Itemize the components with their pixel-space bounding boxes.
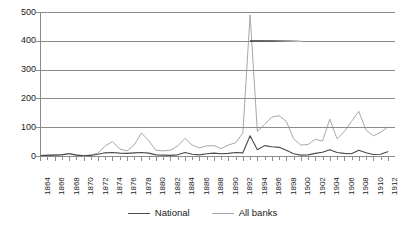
y-axis-labels: 5004003002001000 xyxy=(0,0,36,235)
bank-suspensions-line-chart: 5004003002001000 18641866186818701872187… xyxy=(0,0,405,235)
x-tick-label-1908: 1908 xyxy=(362,177,370,195)
x-tick-1887 xyxy=(207,156,208,160)
x-tick-1881 xyxy=(163,156,164,160)
x-tick-1895 xyxy=(265,156,266,160)
legend-label-all-banks: All banks xyxy=(239,208,278,218)
x-tick-label-1896: 1896 xyxy=(275,177,283,195)
scan-smudge-artifact xyxy=(250,40,301,42)
gridline-100 xyxy=(40,127,395,128)
x-tick-label-1880: 1880 xyxy=(159,177,167,195)
x-tick-label-1876: 1876 xyxy=(130,177,138,195)
x-tick-label-1900: 1900 xyxy=(304,177,312,195)
legend-item-national[interactable]: National xyxy=(128,208,190,218)
y-tick-label-400: 400 xyxy=(2,36,36,45)
x-tick-1873 xyxy=(105,156,106,160)
x-tick-1865 xyxy=(47,156,48,160)
x-tick-1869 xyxy=(76,156,77,160)
x-tick-1871 xyxy=(91,156,92,160)
gridline-200 xyxy=(40,98,395,99)
x-tick-label-1870: 1870 xyxy=(87,177,95,195)
x-tick-label-1894: 1894 xyxy=(261,177,269,195)
y-tick-mark-300 xyxy=(36,70,40,71)
x-tick-label-1892: 1892 xyxy=(246,177,254,195)
legend-item-all-banks[interactable]: All banks xyxy=(212,208,278,218)
y-tick-mark-200 xyxy=(36,98,40,99)
gridline-500 xyxy=(40,12,395,13)
x-tick-1905 xyxy=(337,156,338,160)
x-tick-1911 xyxy=(381,156,382,160)
y-tick-mark-500 xyxy=(36,12,40,13)
x-tick-1877 xyxy=(134,156,135,160)
x-tick-label-1872: 1872 xyxy=(102,177,110,195)
x-tick-label-1868: 1868 xyxy=(73,177,81,195)
y-tick-mark-0 xyxy=(36,156,40,157)
y-tick-label-0: 0 xyxy=(2,152,36,161)
legend-label-national: National xyxy=(155,208,190,218)
y-tick-label-300: 300 xyxy=(2,65,36,74)
x-tick-1907 xyxy=(352,156,353,160)
x-axis-labels: 1864186618681870187218741876187818801882… xyxy=(40,161,395,201)
x-tick-1903 xyxy=(323,156,324,160)
x-tick-label-1898: 1898 xyxy=(290,177,298,195)
series-lines xyxy=(40,12,395,156)
x-tick-1867 xyxy=(62,156,63,160)
x-tick-1879 xyxy=(149,156,150,160)
legend-swatch-national xyxy=(128,213,150,214)
y-tick-label-100: 100 xyxy=(2,123,36,132)
x-tick-1901 xyxy=(308,156,309,160)
x-tick-label-1910: 1910 xyxy=(377,177,385,195)
gridline-400 xyxy=(40,41,395,42)
chart-legend: National All banks xyxy=(0,204,405,222)
x-tick-label-1882: 1882 xyxy=(174,177,182,195)
x-tick-label-1912: 1912 xyxy=(391,177,399,195)
x-tick-1885 xyxy=(192,156,193,160)
line-all-banks xyxy=(40,15,388,156)
y-tick-mark-400 xyxy=(36,41,40,42)
x-tick-1875 xyxy=(120,156,121,160)
x-tick-label-1864: 1864 xyxy=(44,177,52,195)
x-tick-label-1886: 1886 xyxy=(203,177,211,195)
y-tick-label-500: 500 xyxy=(2,8,36,17)
x-tick-1909 xyxy=(366,156,367,160)
x-tick-label-1902: 1902 xyxy=(319,177,327,195)
x-tick-1891 xyxy=(236,156,237,160)
y-tick-mark-100 xyxy=(36,127,40,128)
x-tick-label-1904: 1904 xyxy=(333,177,341,195)
x-tick-label-1906: 1906 xyxy=(348,177,356,195)
x-tick-label-1866: 1866 xyxy=(58,177,66,195)
x-tick-label-1890: 1890 xyxy=(232,177,240,195)
x-tick-1899 xyxy=(294,156,295,160)
y-tick-label-200: 200 xyxy=(2,94,36,103)
x-tick-1893 xyxy=(250,156,251,160)
x-tick-1897 xyxy=(279,156,280,160)
x-tick-label-1884: 1884 xyxy=(188,177,196,195)
x-tick-1883 xyxy=(178,156,179,160)
x-tick-label-1878: 1878 xyxy=(145,177,153,195)
x-tick-label-1874: 1874 xyxy=(116,177,124,195)
legend-swatch-all-banks xyxy=(212,213,234,214)
x-tick-1889 xyxy=(221,156,222,160)
x-tick-label-1888: 1888 xyxy=(217,177,225,195)
plot-area xyxy=(40,12,395,156)
gridline-300 xyxy=(40,70,395,71)
